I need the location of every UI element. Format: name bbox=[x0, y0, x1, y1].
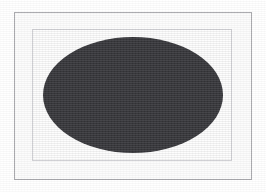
figure-canvas bbox=[0, 0, 266, 192]
inner-border-rectangle bbox=[32, 29, 232, 161]
filled-ellipse bbox=[43, 37, 223, 153]
outer-border-rectangle bbox=[14, 12, 252, 180]
